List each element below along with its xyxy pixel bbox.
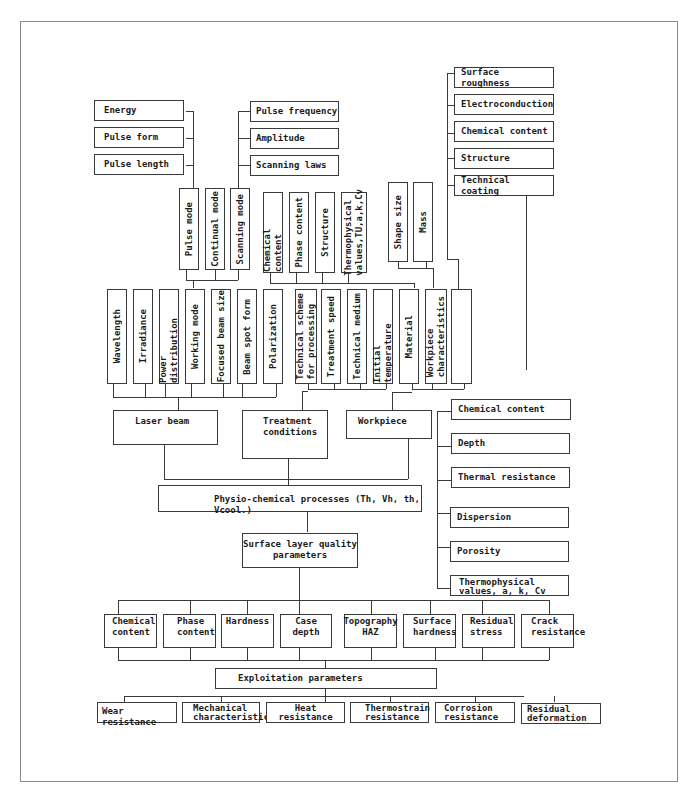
node-treatment-conditions: Treatment conditions <box>242 410 328 459</box>
node-workpiece-characteristics: Workpiece characteristics <box>425 289 447 384</box>
node-wear-resistance: Wear resistance <box>97 702 177 723</box>
node-continual-mode: Continual mode <box>205 188 225 270</box>
node-pulse-length: Pulse length <box>94 154 184 175</box>
node-exploitation-parameters: Exploitation parameters <box>215 668 437 689</box>
label-thermophysical-medium: Thermophysical values,TU,a,k,Cv <box>343 189 365 276</box>
label-beam-spot-form: Beam spot form <box>242 299 253 375</box>
node-depth: Depth <box>451 433 570 454</box>
node-porosity: Porosity <box>450 541 569 562</box>
node-q-chemical-content: Chemical content <box>104 614 157 648</box>
node-q-case-depth: Case depth <box>280 614 332 648</box>
node-residual-deformation: Residual deformation <box>521 703 601 724</box>
node-wavelength: Wavelength <box>107 289 127 384</box>
node-q-surface-hardness: Surface hardness <box>403 614 456 648</box>
node-pulse-frequency: Pulse frequency <box>250 101 339 122</box>
label-focused-beam-size: Focused beam size <box>216 290 227 382</box>
node-initial-temperature: Initial temperature <box>373 289 393 384</box>
node-q-phase-content: Phase content <box>163 614 216 648</box>
node-thermostrain-resistance: Thermostrain resistance <box>350 702 429 723</box>
node-mass: Mass <box>413 182 433 262</box>
node-thermal-resistance: Thermal resistance <box>451 467 570 488</box>
node-irradiance: Irradiance <box>133 289 153 384</box>
node-polarization: Polarization <box>263 289 283 384</box>
node-thermophysical-coating: Thermophysical values, a, k, Cv <box>450 575 569 596</box>
label-technical-scheme: Technical scheme for processing <box>295 293 317 380</box>
label-structure-medium: Structure <box>320 208 331 257</box>
node-shape-size: Shape size <box>388 182 408 262</box>
label-shape-size: Shape size <box>393 195 404 249</box>
label-continual-mode: Continual mode <box>210 191 221 267</box>
label-technical-medium: Technical medium <box>352 293 363 380</box>
label-working-mode: Working mode <box>190 304 201 369</box>
node-heat-resistance: Heat resistance <box>266 702 345 723</box>
node-electroconduction: Electroconduction <box>454 94 554 115</box>
node-laser-beam: Laser beam <box>113 410 218 445</box>
label-workpiece-characteristics: Workpiece characteristics <box>425 296 447 377</box>
node-working-mode: Working mode <box>185 289 205 384</box>
node-technical-medium: Technical medium <box>347 289 367 384</box>
node-surface-roughness: Surface roughness <box>454 67 554 88</box>
label-mass: Mass <box>418 211 429 233</box>
node-structure-surface: Structure <box>454 148 554 169</box>
node-physio-chemical: Physio-chemical processes (Th, Vh, th, V… <box>158 485 422 512</box>
label-initial-temperature: Initial temperature <box>372 290 394 383</box>
label-scanning-mode: Scanning mode <box>235 194 246 264</box>
label-material: Material <box>404 315 415 358</box>
label-irradiance: Irradiance <box>138 309 149 363</box>
node-power-distribution: Power distribution <box>159 289 179 384</box>
node-material: Material <box>399 289 419 384</box>
node-dispersion: Dispersion <box>450 507 569 528</box>
label-wavelength: Wavelength <box>112 309 123 363</box>
node-beam-spot-form: Beam spot form <box>237 289 257 384</box>
node-surface-layer-quality: Surface layer quality parameters <box>242 533 358 568</box>
node-workpiece: Workpiece <box>346 410 432 439</box>
node-q-residual-stress: Residual stress <box>462 614 515 648</box>
node-structure-medium: Structure <box>315 192 335 273</box>
node-pulse-mode: Pulse mode <box>179 188 199 270</box>
node-scanning-mode: Scanning mode <box>230 188 250 270</box>
node-energy: Energy <box>94 100 184 121</box>
node-amplitude: Amplitude <box>250 128 339 149</box>
label-polarization: Polarization <box>268 304 279 369</box>
node-phase-content-medium: Phase content <box>289 192 309 273</box>
node-corrosion-resistance: Corrosion resistance <box>435 702 515 723</box>
node-pulse-form: Pulse form <box>94 127 184 148</box>
node-chemical-content-coating: Chemical content <box>451 399 571 420</box>
node-mechanical-characteristics: Mechanical characteristics <box>182 702 260 723</box>
label-phase-content-medium: Phase content <box>294 197 305 267</box>
node-chemical-content-medium: Chemical content <box>263 192 283 273</box>
label-chemical-content-medium: Chemical content <box>262 193 284 272</box>
node-technical-coating: Technical coating <box>454 175 554 196</box>
node-thermophysical-medium: Thermophysical values,TU,a,k,Cv <box>341 192 367 273</box>
node-scanning-laws: Scanning laws <box>250 155 339 176</box>
node-technical-scheme: Technical scheme for processing <box>295 289 317 384</box>
label-power-distribution: Power distribution <box>158 290 180 383</box>
node-chemical-content-surface: Chemical content <box>454 121 554 142</box>
node-q-topography-haz: Topography HAZ <box>344 614 397 648</box>
label-treatment-speed: Treatment speed <box>326 296 337 377</box>
node-surface-blank <box>451 289 472 384</box>
label-pulse-mode: Pulse mode <box>184 202 195 256</box>
node-q-hardness: Hardness <box>221 614 274 648</box>
node-focused-beam-size: Focused beam size <box>211 289 231 384</box>
node-q-crack-resistance: Crack resistance <box>521 614 574 648</box>
node-treatment-speed: Treatment speed <box>321 289 341 384</box>
